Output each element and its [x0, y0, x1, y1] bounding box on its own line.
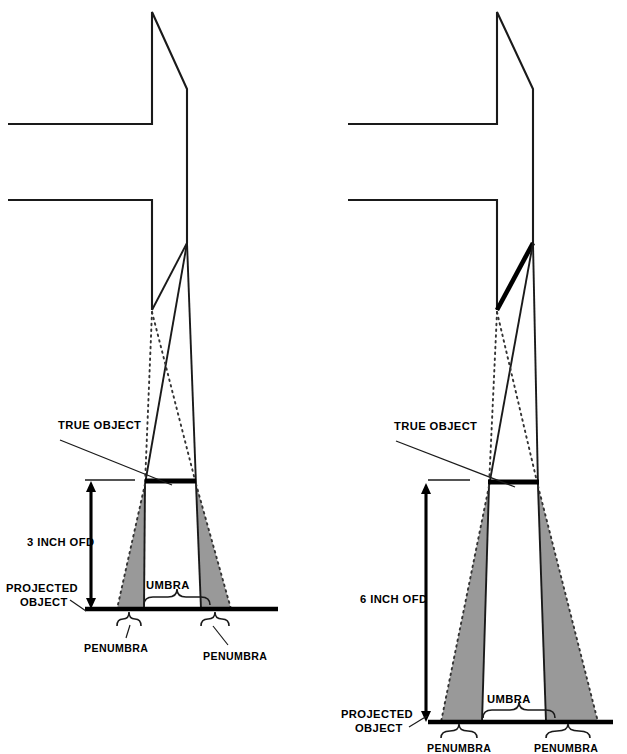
left-penumbra-label-right: PENUMBRA — [203, 650, 267, 662]
right-true-object-label: TRUE OBJECT — [394, 420, 477, 432]
right-umbra-label: UMBRA — [487, 693, 531, 705]
left-true-object-label: TRUE OBJECT — [58, 419, 141, 431]
right-ofd-label: 6 INCH OFD — [360, 593, 427, 605]
right-penumbra-label-right: PENUMBRA — [534, 742, 598, 754]
left-umbra-label: UMBRA — [146, 579, 190, 591]
left-penumbra-label-left: PENUMBRA — [84, 642, 148, 654]
diagram-canvas: 3 INCH OFD TRUE OBJECT PROJECTED OBJECT … — [0, 0, 627, 754]
left-projected-object-label-line1: PROJECTED — [6, 582, 78, 594]
right-penumbra-label-left: PENUMBRA — [427, 742, 491, 754]
right-projected-object-label-line1: PROJECTED — [341, 708, 413, 720]
left-ofd-label: 3 INCH OFD — [27, 536, 94, 548]
umbra-penumbra-figure: 3 INCH OFD TRUE OBJECT PROJECTED OBJECT … — [0, 0, 627, 754]
right-projected-object-label-line2: OBJECT — [355, 722, 403, 734]
left-projected-object-label-line2: OBJECT — [20, 596, 68, 608]
